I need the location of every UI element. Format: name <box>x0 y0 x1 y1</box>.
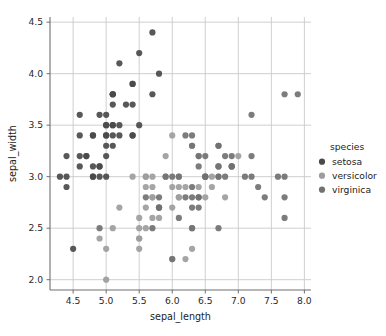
data-point <box>103 132 109 138</box>
legend-marker-icon <box>319 187 325 193</box>
data-point <box>196 184 202 190</box>
data-point <box>281 215 287 221</box>
data-point <box>281 91 287 97</box>
legend-item-label: setosa <box>332 156 362 167</box>
x-tick-label: 5.0 <box>99 295 114 306</box>
data-point <box>103 246 109 252</box>
data-point <box>248 112 254 118</box>
data-point <box>196 153 202 159</box>
legend-marker-icon <box>319 173 325 179</box>
data-point <box>189 184 195 190</box>
data-point <box>103 122 109 128</box>
data-point <box>189 246 195 252</box>
data-point <box>189 143 195 149</box>
data-point <box>235 153 241 159</box>
data-point <box>295 91 301 97</box>
data-point <box>209 184 215 190</box>
data-point <box>169 132 175 138</box>
data-point <box>262 194 268 200</box>
data-point <box>63 174 69 180</box>
data-point <box>222 174 228 180</box>
data-point <box>103 174 109 180</box>
scatter-plot-figure: 4.55.05.56.06.57.07.58.0 2.02.53.03.54.0… <box>0 0 386 336</box>
data-point <box>176 215 182 221</box>
data-point <box>176 194 182 200</box>
data-point <box>116 60 122 66</box>
data-point <box>189 225 195 231</box>
data-point <box>77 163 83 169</box>
data-point <box>182 194 188 200</box>
data-point <box>182 132 188 138</box>
data-point <box>96 163 102 169</box>
y-tick-label: 2.5 <box>28 222 43 233</box>
data-point <box>275 174 281 180</box>
data-point <box>110 143 116 149</box>
data-point <box>136 235 142 241</box>
data-point <box>136 50 142 56</box>
data-point <box>129 81 135 87</box>
chart-canvas: 4.55.05.56.06.57.07.58.0 2.02.53.03.54.0… <box>0 0 386 336</box>
data-point <box>116 204 122 210</box>
data-point <box>103 112 109 118</box>
x-tick-label: 5.5 <box>132 295 147 306</box>
data-point <box>163 153 169 159</box>
data-point <box>182 256 188 262</box>
x-tick-label: 6.0 <box>165 295 180 306</box>
legend-item-label: versicolor <box>332 170 377 181</box>
y-tick-label: 3.0 <box>28 171 43 182</box>
data-point <box>248 153 254 159</box>
data-point <box>143 194 149 200</box>
data-point <box>149 194 155 200</box>
data-point <box>215 143 221 149</box>
data-point <box>149 29 155 35</box>
legend-title: species <box>330 141 365 152</box>
data-point <box>129 101 135 107</box>
data-point <box>63 153 69 159</box>
data-point <box>281 174 287 180</box>
x-tick-label: 4.5 <box>66 295 81 306</box>
y-tick-label: 2.0 <box>28 274 43 285</box>
legend-item-label: virginica <box>332 184 371 195</box>
data-point <box>255 184 261 190</box>
data-point <box>96 112 102 118</box>
data-point <box>123 101 129 107</box>
data-point <box>136 246 142 252</box>
data-point <box>189 204 195 210</box>
data-point <box>189 132 195 138</box>
data-point <box>77 153 83 159</box>
x-tick-label: 6.5 <box>198 295 213 306</box>
data-point <box>110 122 116 128</box>
data-point <box>229 153 235 159</box>
data-point <box>136 122 142 128</box>
y-tick-label: 4.5 <box>28 16 43 27</box>
data-point <box>110 101 116 107</box>
data-point <box>169 184 175 190</box>
data-point <box>63 184 69 190</box>
data-point <box>103 277 109 283</box>
data-point <box>176 174 182 180</box>
data-point <box>116 132 122 138</box>
data-point <box>202 174 208 180</box>
data-point <box>163 174 169 180</box>
data-point <box>110 91 116 97</box>
data-point <box>136 215 142 221</box>
data-point <box>143 225 149 231</box>
data-point <box>182 184 188 190</box>
data-point <box>90 132 96 138</box>
y-axis-title: sepal_width <box>7 125 19 182</box>
data-point <box>90 163 96 169</box>
data-point <box>176 184 182 190</box>
data-point <box>110 225 116 231</box>
data-point <box>156 215 162 221</box>
data-point <box>110 132 116 138</box>
x-tick-label: 7.5 <box>264 295 279 306</box>
data-point <box>129 174 135 180</box>
data-point <box>103 143 109 149</box>
data-point <box>156 204 162 210</box>
data-point <box>156 194 162 200</box>
data-point <box>169 256 175 262</box>
x-tick-label: 8.0 <box>297 295 312 306</box>
data-point <box>70 246 76 252</box>
data-point <box>77 132 83 138</box>
data-point <box>189 194 195 200</box>
